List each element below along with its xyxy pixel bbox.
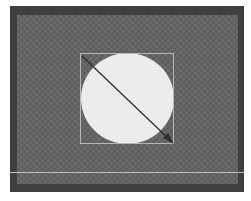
figure-caption: [10, 196, 244, 201]
resize-arrow-icon: [0, 0, 251, 201]
